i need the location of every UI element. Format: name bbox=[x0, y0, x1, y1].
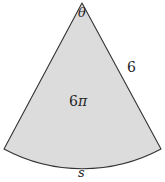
arc-length-label: s bbox=[78, 166, 85, 179]
vertex-angle-label: θ bbox=[78, 6, 86, 19]
area-coefficient: 6 bbox=[69, 93, 78, 109]
sector-path bbox=[4, 3, 161, 169]
sector-figure: θ 6 6π s bbox=[0, 0, 165, 182]
pi-symbol: π bbox=[78, 93, 87, 109]
area-label: 6π bbox=[69, 94, 87, 108]
sector-shape bbox=[0, 0, 165, 182]
radius-label: 6 bbox=[127, 60, 136, 74]
